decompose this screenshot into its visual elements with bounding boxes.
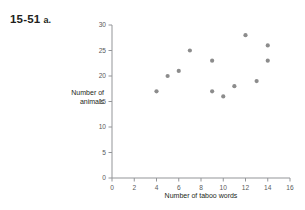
y-axis-tick-label: 25: [99, 47, 107, 54]
y-axis-tick-label: 20: [99, 72, 107, 79]
data-point: [154, 89, 158, 93]
y-axis-tick-label: 5: [102, 149, 106, 156]
plot-canvas: 0246810121416051015202530: [0, 0, 305, 210]
x-axis-tick-label: 8: [199, 184, 203, 191]
x-axis-tick-label: 16: [286, 184, 294, 191]
x-axis-tick-label: 0: [110, 184, 114, 191]
y-axis-tick-label: 30: [99, 21, 107, 28]
y-axis-tick-label: 15: [99, 98, 107, 105]
data-point: [210, 59, 214, 63]
data-point: [188, 48, 192, 52]
data-point-group: [154, 33, 269, 98]
data-point: [255, 79, 259, 83]
x-axis-tick-label: 12: [242, 184, 250, 191]
scatter-plot-figure: 15-51a. Number of animals Number of tabo…: [0, 0, 305, 210]
x-axis-tick-label: 4: [155, 184, 159, 191]
data-point: [243, 33, 247, 37]
data-point: [166, 74, 170, 78]
x-axis-tick-label: 10: [220, 184, 228, 191]
data-point: [266, 59, 270, 63]
data-point: [266, 43, 270, 47]
y-axis-tick-label: 0: [102, 174, 106, 181]
x-axis-tick-label: 2: [132, 184, 136, 191]
x-axis-tick-label: 6: [177, 184, 181, 191]
data-point: [210, 89, 214, 93]
data-point: [232, 84, 236, 88]
data-point: [221, 94, 225, 98]
data-point: [177, 69, 181, 73]
y-axis-tick-label: 10: [99, 123, 107, 130]
x-axis-tick-label: 14: [264, 184, 272, 191]
